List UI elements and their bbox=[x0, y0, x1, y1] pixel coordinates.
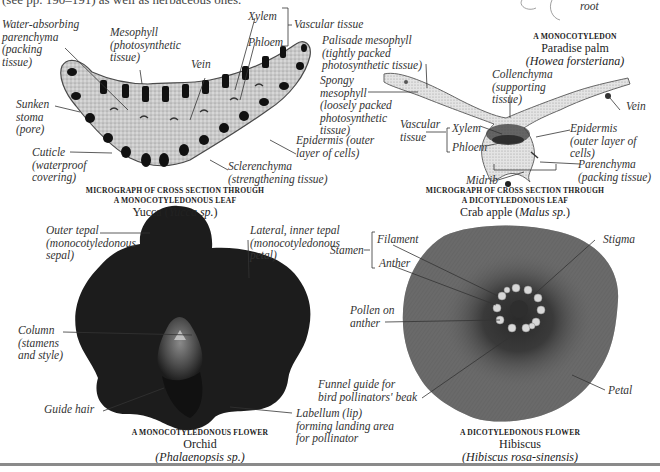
caption-hibiscus: A DICOTYLEDONOUS FLOWER Hibiscus (Hibisc… bbox=[430, 428, 610, 464]
label-column: Column (stamens and style) bbox=[18, 324, 63, 362]
label-stamen: Stamen bbox=[330, 244, 364, 257]
label-parenchyma: Parenchyma (packing tissue) bbox=[578, 158, 651, 183]
intro-text: (see pp. 190–191) as well as herbaceous … bbox=[2, 0, 241, 8]
caption-yucca-title-1: MICROGRAPH OF CROSS SECTION THROUGH bbox=[60, 186, 290, 196]
label-anther: Anther bbox=[379, 257, 410, 270]
label-guide-hair: Guide hair bbox=[44, 403, 94, 416]
caption-yucca: MICROGRAPH OF CROSS SECTION THROUGH A MO… bbox=[60, 186, 290, 219]
caption-crab-title-1: MICROGRAPH OF CROSS SECTION THROUGH bbox=[390, 186, 640, 196]
bottom-divider bbox=[0, 463, 660, 466]
label-water-absorbing-parenchyma: Water-absorbing parenchyma (packing tiss… bbox=[2, 18, 79, 68]
label-labellum: Labellum (lip) forming landing area for … bbox=[296, 407, 394, 445]
label-mesophyll: Mesophyll (photosynthetic tissue) bbox=[110, 26, 181, 64]
caption-yucca-name-line: Yucca (Yucca sp.) bbox=[60, 206, 290, 219]
palm-root-sketch bbox=[521, 0, 560, 20]
label-pollen-on-anther: Pollen on anther bbox=[350, 304, 394, 329]
caption-palm: A MONOCOTYLEDON Paradise palm (Howea for… bbox=[490, 32, 660, 68]
label-collenchyma: Collenchyma (supporting tissue) bbox=[492, 68, 553, 106]
label-epidermis-yucca: Epidermis (outer layer of cells) bbox=[296, 134, 374, 159]
label-midrib: Midrib bbox=[466, 174, 498, 187]
label-phloem: Phloem bbox=[248, 36, 283, 49]
caption-palm-species: (Howea forsteriana) bbox=[490, 55, 660, 68]
label-phloem-crab: Phloem bbox=[452, 141, 487, 154]
label-vascular-tissue: Vascular tissue bbox=[294, 18, 363, 31]
label-sclerenchyma: Sclerenchyma (strengthening tissue) bbox=[228, 160, 328, 185]
label-root: root bbox=[580, 0, 599, 13]
label-petal: Petal bbox=[608, 384, 632, 397]
label-palisade-mesophyll: Palisade mesophyll (tightly packed photo… bbox=[322, 34, 422, 72]
label-vein: Vein bbox=[191, 58, 211, 71]
caption-crab-apple: MICROGRAPH OF CROSS SECTION THROUGH A DI… bbox=[390, 186, 640, 219]
label-spongy-mesophyll: Spongy mesophyll (loosely packed photosy… bbox=[320, 74, 392, 137]
label-funnel-guide: Funnel guide for bird pollinators' beak bbox=[318, 378, 417, 403]
label-stigma: Stigma bbox=[603, 233, 635, 246]
hibiscus-flower bbox=[403, 226, 618, 422]
label-epidermis-crab: Epidermis (outer layer of cells) bbox=[570, 122, 636, 160]
label-cuticle: Cuticle (waterproof covering) bbox=[32, 146, 87, 184]
label-sunken-stoma: Sunken stoma (pore) bbox=[16, 98, 49, 136]
label-xylem-crab: Xylem bbox=[452, 122, 481, 135]
label-lateral-inner-tepal: Lateral, inner tepal (monocotyledonous p… bbox=[250, 224, 340, 262]
caption-orchid: A MONOCOTYLEDONOUS FLOWER Orchid (Phalae… bbox=[110, 428, 290, 464]
label-vein-crab: Vein bbox=[626, 100, 646, 113]
caption-crab-name-line: Crab apple (Malus sp.) bbox=[390, 206, 640, 219]
label-vascular-tissue-crab: Vascular tissue bbox=[400, 118, 440, 143]
label-filament: Filament bbox=[377, 233, 419, 246]
label-outer-tepal: Outer tepal (monocotyledonous sepal) bbox=[46, 224, 136, 262]
label-xylem: Xylem bbox=[248, 10, 277, 23]
yucca-leaf-micrograph bbox=[61, 42, 311, 167]
